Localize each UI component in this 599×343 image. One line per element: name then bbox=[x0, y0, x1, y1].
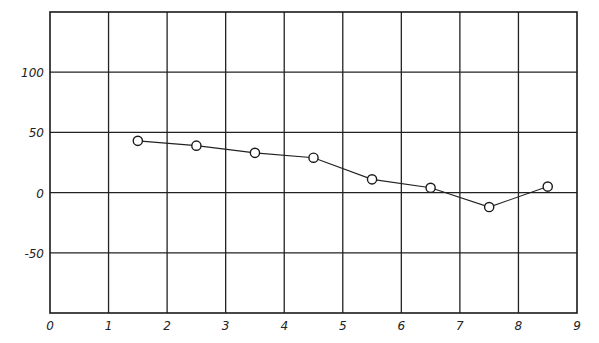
y-tick-label: 100 bbox=[21, 66, 44, 80]
x-tick-label: 3 bbox=[222, 319, 230, 333]
x-tick-label: 5 bbox=[339, 319, 347, 333]
data-point bbox=[543, 182, 552, 191]
x-tick-label: 1 bbox=[105, 319, 113, 333]
data-point bbox=[133, 136, 142, 145]
data-point bbox=[309, 153, 318, 162]
x-axis-tick-labels: 0123456789 bbox=[46, 319, 581, 333]
chart: 0123456789 -50050100 bbox=[0, 0, 599, 343]
data-point bbox=[485, 202, 494, 211]
x-tick-label: 7 bbox=[456, 319, 464, 333]
y-tick-label: 0 bbox=[36, 187, 44, 201]
x-tick-label: 2 bbox=[163, 319, 171, 333]
x-tick-label: 0 bbox=[46, 319, 54, 333]
data-point bbox=[250, 148, 259, 157]
x-tick-label: 4 bbox=[280, 319, 288, 333]
x-tick-label: 8 bbox=[515, 319, 523, 333]
data-point bbox=[192, 141, 201, 150]
data-point bbox=[426, 183, 435, 192]
y-tick-label: -50 bbox=[24, 247, 44, 261]
y-tick-label: 50 bbox=[29, 126, 45, 140]
x-tick-label: 9 bbox=[573, 319, 581, 333]
x-tick-label: 6 bbox=[398, 319, 406, 333]
y-axis-tick-labels: -50050100 bbox=[21, 66, 44, 261]
data-point bbox=[367, 175, 376, 184]
